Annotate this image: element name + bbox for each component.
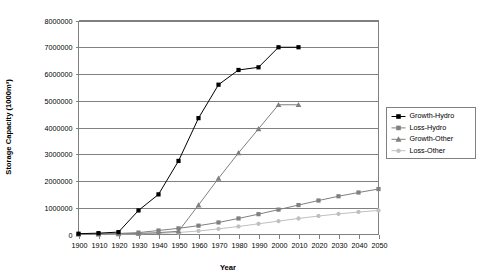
x-tick-label: 1900: [72, 241, 88, 250]
y-tick-label: 8000000: [45, 17, 73, 26]
x-tick-label: 1970: [212, 241, 228, 250]
data-point-marker: [276, 219, 280, 223]
line-chart: 0100000020000003000000400000050000006000…: [0, 0, 481, 277]
legend-label: Loss-Hydro: [410, 123, 447, 132]
x-axis-ticks: [80, 235, 380, 239]
data-point-marker: [96, 231, 100, 235]
x-tick-label: 2030: [332, 241, 348, 250]
data-point-marker: [296, 203, 300, 207]
data-point-marker: [216, 227, 220, 231]
y-tick-label: 6000000: [45, 70, 73, 79]
series-line: [79, 105, 299, 234]
series-line: [79, 47, 299, 233]
data-point-marker: [356, 190, 360, 194]
data-point-marker: [356, 210, 360, 214]
x-tick-label: 1930: [132, 241, 148, 250]
data-point-marker: [256, 65, 260, 69]
x-tick-label: 2050: [372, 241, 388, 250]
data-point-marker: [116, 230, 120, 234]
data-point-marker: [236, 68, 240, 72]
data-point-marker: [336, 194, 340, 198]
series-growth-other: [76, 102, 302, 237]
x-tick-label: 1910: [92, 241, 108, 250]
y-tick-label: 2000000: [45, 177, 73, 186]
data-series: [76, 45, 381, 236]
legend-label: Growth-Other: [410, 134, 454, 143]
data-point-marker: [256, 212, 260, 216]
data-point-marker: [296, 216, 300, 220]
data-point-marker: [216, 83, 220, 87]
data-point-marker: [396, 114, 401, 119]
x-tick-label: 1950: [172, 241, 188, 250]
x-tick-labels: 1900191019201930194019501960197019801990…: [72, 241, 388, 250]
series-growth-hydro: [76, 45, 300, 236]
x-tick-label: 1920: [112, 241, 128, 250]
x-tick-label: 2000: [272, 241, 288, 250]
data-point-marker: [276, 208, 280, 212]
plot-axes: [79, 21, 379, 235]
series-line: [79, 210, 379, 234]
data-point-marker: [196, 116, 200, 120]
data-point-marker: [136, 208, 140, 212]
data-point-marker: [236, 216, 240, 220]
y-tick-label: 5000000: [45, 97, 73, 106]
x-tick-label: 1980: [232, 241, 248, 250]
x-tick-label: 1940: [152, 241, 168, 250]
y-tick-labels: 0100000020000003000000400000050000006000…: [45, 17, 79, 240]
series-loss-other: [76, 208, 380, 236]
data-point-marker: [376, 208, 380, 212]
x-axis-title: Year: [220, 263, 236, 272]
data-point-marker: [276, 45, 280, 49]
legend-label: Loss-Other: [410, 146, 446, 155]
data-point-marker: [376, 187, 380, 191]
data-point-marker: [396, 126, 401, 131]
data-point-marker: [296, 45, 300, 49]
y-tick-label: 1000000: [45, 204, 73, 213]
x-tick-label: 1960: [192, 241, 208, 250]
data-point-marker: [156, 192, 160, 196]
x-tick-label: 2040: [352, 241, 368, 250]
data-point-marker: [316, 198, 320, 202]
y-axis-title: Storage Capacity (1000m³): [4, 79, 13, 175]
data-point-marker: [216, 220, 220, 224]
x-tick-label: 1990: [252, 241, 268, 250]
x-tick-label: 2010: [292, 241, 308, 250]
data-point-marker: [236, 224, 240, 228]
data-point-marker: [176, 159, 180, 163]
data-point-marker: [316, 214, 320, 218]
data-point-marker: [196, 229, 200, 233]
data-point-marker: [336, 212, 340, 216]
y-tick-label: 3000000: [45, 150, 73, 159]
data-point-marker: [396, 149, 400, 153]
y-tick-label: 0: [69, 231, 73, 240]
data-point-marker: [76, 232, 80, 236]
x-tick-label: 2020: [312, 241, 328, 250]
data-point-marker: [256, 222, 260, 226]
grid-lines: [79, 22, 379, 209]
legend-label: Growth-Hydro: [410, 111, 455, 120]
data-point-marker: [196, 224, 200, 228]
legend[interactable]: Growth-HydroLoss-HydroGrowth-OtherLoss-O…: [387, 108, 476, 159]
y-tick-label: 7000000: [45, 43, 73, 52]
chart-container: 0100000020000003000000400000050000006000…: [0, 0, 481, 277]
y-tick-label: 4000000: [45, 124, 73, 133]
